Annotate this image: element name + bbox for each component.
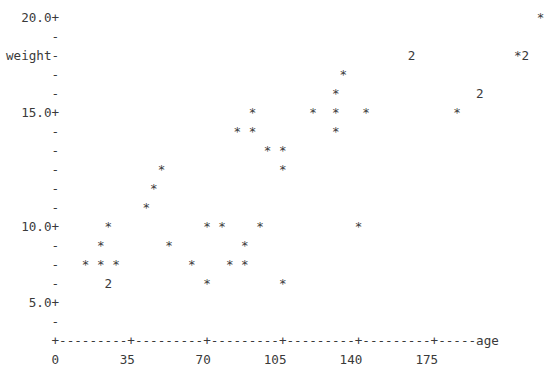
plot-canvas: 20.0+ * - weight- 2 *2 - * xyxy=(6,8,544,368)
